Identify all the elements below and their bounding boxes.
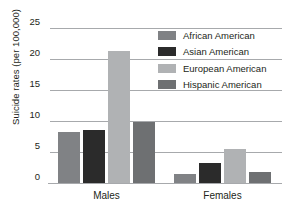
- bar-females-asian-american: [199, 163, 221, 183]
- y-tick-label-15: 15: [14, 79, 40, 89]
- gridline-0: [48, 183, 282, 184]
- group-label-females: Females: [183, 190, 263, 201]
- suicide-rates-bar-chart: Suicide rates (per 100,000) 0510152025 M…: [0, 0, 287, 216]
- legend-label: Hispanic American: [183, 79, 262, 90]
- bar-males-asian-american: [83, 130, 105, 183]
- y-tick-label-25: 25: [14, 17, 40, 27]
- y-tick-label-0: 0: [14, 172, 40, 182]
- legend-swatch-icon: [158, 80, 176, 89]
- bar-females-european-american: [224, 149, 246, 183]
- legend-label: Asian American: [183, 46, 249, 57]
- y-tick-label-5: 5: [14, 141, 40, 151]
- bar-females-african-american: [174, 174, 196, 183]
- gridline-10: [50, 121, 282, 122]
- y-tick-label-20: 20: [14, 48, 40, 58]
- bar-males-hispanic-american: [133, 122, 155, 183]
- bar-males-african-american: [58, 132, 80, 183]
- legend-swatch-icon: [158, 64, 176, 73]
- legend-label: European American: [183, 63, 266, 74]
- group-label-males: Males: [67, 190, 147, 201]
- legend-item-hispanic-american[interactable]: Hispanic American: [158, 77, 284, 94]
- legend-label: African American: [183, 30, 255, 41]
- legend: African AmericanAsian AmericanEuropean A…: [158, 27, 284, 93]
- legend-item-asian-american[interactable]: Asian American: [158, 44, 284, 61]
- legend-swatch-icon: [158, 47, 176, 56]
- legend-swatch-icon: [158, 31, 176, 40]
- legend-item-european-american[interactable]: European American: [158, 60, 284, 77]
- bar-males-european-american: [108, 51, 130, 183]
- y-tick-label-10: 10: [14, 110, 40, 120]
- legend-item-african-american[interactable]: African American: [158, 27, 284, 44]
- bar-females-hispanic-american: [249, 172, 271, 183]
